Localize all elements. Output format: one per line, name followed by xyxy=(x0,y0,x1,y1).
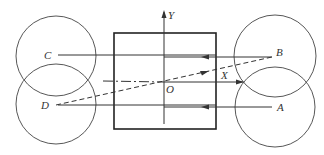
y-axis-arrow-icon xyxy=(162,10,167,18)
x-axis-label: X xyxy=(220,69,229,81)
y-axis-label: Y xyxy=(168,9,176,21)
circle-d xyxy=(16,64,96,144)
point-a-label: A xyxy=(276,101,284,113)
point-b-label: B xyxy=(276,46,283,58)
origin-label: O xyxy=(166,83,174,95)
circle-c xyxy=(16,16,96,96)
circle-b xyxy=(234,15,316,97)
point-d-label: D xyxy=(40,99,49,111)
diagram-canvas: Y X O C B D A xyxy=(0,0,324,155)
dashed-arrow-icon xyxy=(200,71,209,76)
x-axis-dashdot xyxy=(103,81,164,82)
point-c-label: C xyxy=(44,49,52,61)
